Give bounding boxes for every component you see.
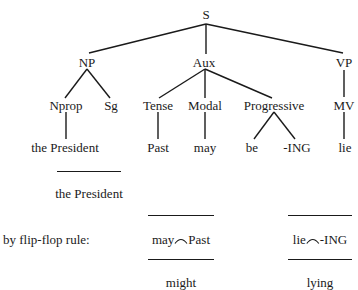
verb-bottom-rule-line	[288, 259, 352, 260]
node-sg: Sg	[104, 98, 118, 113]
leaf-past: Past	[147, 140, 169, 155]
node-tense: Tense	[143, 98, 173, 113]
subject-result: the President	[55, 186, 123, 201]
subject-rule-line	[57, 171, 121, 172]
leaf-ing: -ING	[283, 140, 310, 155]
leaf-lie: lie	[339, 140, 352, 155]
node-aux: Aux	[193, 55, 215, 70]
modal-top-rule-line	[148, 215, 214, 216]
node-vp: VP	[336, 55, 353, 70]
node-np: NP	[79, 55, 96, 70]
node-mv: MV	[334, 98, 355, 113]
leaf-may: may	[194, 140, 216, 155]
node-s: S	[202, 7, 209, 22]
modal-bottom-rule-line	[148, 259, 214, 260]
verb-result: lying	[307, 275, 334, 290]
modal-join-left: may	[152, 232, 174, 247]
node-progressive: Progressive	[244, 98, 305, 113]
leaf-be: be	[246, 140, 258, 155]
modal-join: mayPast	[152, 232, 210, 247]
modal-result: might	[166, 275, 196, 290]
modal-join-right: Past	[188, 232, 210, 247]
verb-top-rule-line	[288, 215, 352, 216]
flip-flop-rule-label: by flip-flop rule:	[3, 232, 90, 247]
node-nprop: Nprop	[49, 98, 82, 113]
leaf-the-president: the President	[31, 140, 99, 155]
verb-join: lie-ING	[293, 232, 347, 247]
node-modal: Modal	[188, 98, 222, 113]
verb-join-right: -ING	[320, 232, 347, 247]
